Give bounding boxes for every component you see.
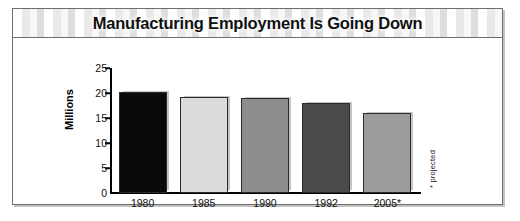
y-axis-tick-labels: 0510152025: [81, 38, 107, 204]
y-tick-label: 15: [85, 112, 107, 124]
y-tick-label: 5: [85, 162, 107, 174]
bar-1985[interactable]: [180, 97, 228, 194]
bar-slot: [173, 68, 234, 193]
x-tick-label: 2005*: [357, 197, 418, 209]
bar-slot: [296, 68, 357, 193]
y-tick-label: 20: [85, 87, 107, 99]
chart-frame: Manufacturing Employment Is Going Down M…: [12, 8, 503, 205]
x-tick-label: 1985: [173, 197, 234, 209]
bar-slot: [112, 68, 173, 193]
bar-1980[interactable]: [119, 92, 167, 194]
chart-figure: Manufacturing Employment Is Going Down M…: [0, 0, 520, 221]
bar-slot: [357, 68, 418, 193]
bar-1990[interactable]: [241, 98, 289, 194]
y-tick-label: 25: [85, 62, 107, 74]
x-axis-tick-labels: 19801985199019922005*: [112, 197, 418, 213]
bar-1992[interactable]: [302, 103, 350, 193]
bar-slot: [234, 68, 295, 193]
projected-footnote: * projected: [428, 150, 437, 188]
bars-plot-area: [112, 68, 418, 193]
plot-body: Millions 0510152025 19801985199019922005…: [13, 38, 502, 204]
x-tick-label: 1980: [112, 197, 173, 209]
bar-2005[interactable]: [363, 113, 411, 194]
chart-title: Manufacturing Employment Is Going Down: [83, 14, 433, 33]
y-tick-label: 10: [85, 137, 107, 149]
chart-title-banner: Manufacturing Employment Is Going Down: [13, 9, 502, 38]
x-tick-label: 1990: [234, 197, 295, 209]
x-tick-label: 1992: [296, 197, 357, 209]
y-tick-label: 0: [85, 187, 107, 199]
